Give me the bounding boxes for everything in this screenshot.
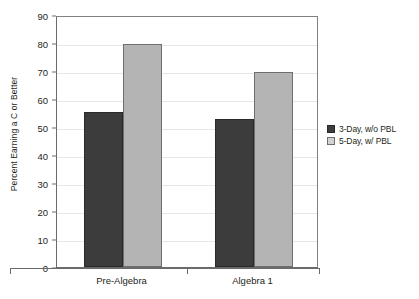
- y-axis-tick-label: 50: [37, 123, 48, 134]
- x-axis-line: [10, 268, 320, 269]
- y-axis-tick-labels: 0102030405060708090: [22, 16, 52, 268]
- bar: [254, 72, 293, 267]
- x-axis-separator-tick: [187, 268, 188, 274]
- bar: [123, 44, 162, 267]
- y-axis-tick-label: 40: [37, 151, 48, 162]
- bar-chart: Percent Earning a C or Better 0102030405…: [0, 0, 419, 299]
- x-axis-tick-label: Algebra 1: [232, 275, 273, 286]
- y-axis-tick-label: 30: [37, 179, 48, 190]
- x-axis-tick-label: Pre-Algebra: [96, 275, 147, 286]
- y-axis-tick-label: 70: [37, 67, 48, 78]
- legend-swatch: [327, 125, 335, 133]
- bar: [84, 112, 123, 267]
- chart-legend: 3-Day, w/o PBL5-Day, w/ PBL: [327, 124, 396, 146]
- legend-label: 5-Day, w/ PBL: [339, 136, 391, 146]
- y-axis-tick-label: 80: [37, 39, 48, 50]
- y-axis-title: Percent Earning a C or Better: [4, 0, 24, 268]
- y-axis-title-text: Percent Earning a C or Better: [9, 77, 19, 191]
- y-axis-tick-label: 20: [37, 207, 48, 218]
- legend-item: 3-Day, w/o PBL: [327, 124, 396, 134]
- y-axis-tick-label: 10: [37, 235, 48, 246]
- legend-label: 3-Day, w/o PBL: [339, 124, 396, 134]
- bars-layer: [57, 17, 317, 267]
- x-axis-separator-tick: [319, 268, 320, 274]
- x-axis-separator-tick: [10, 268, 11, 274]
- legend-swatch: [327, 137, 335, 145]
- y-axis-tick-label: 90: [37, 11, 48, 22]
- plot-area: [56, 16, 318, 268]
- y-axis-tick-label: 60: [37, 95, 48, 106]
- legend-item: 5-Day, w/ PBL: [327, 136, 396, 146]
- bar: [215, 119, 254, 267]
